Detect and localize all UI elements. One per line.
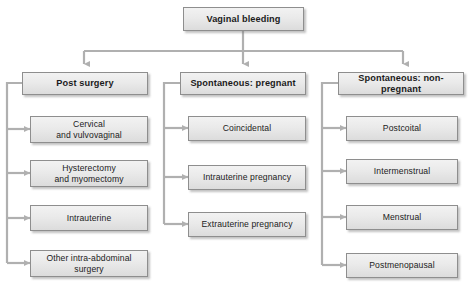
node-leaf-postmenopausal[interactable]: Postmenopausal [346,253,458,278]
node-header-post-surgery[interactable]: Post surgery [22,72,148,95]
node-leaf-intrauterine[interactable]: Intrauterine [30,205,148,231]
node-header-label: Spontaneous: non-pregnant [339,73,463,95]
connector-col1-spine [7,83,22,263]
node-leaf-cervical-and-vulvovaginal[interactable]: Cervical and vulvovaginal [30,116,148,143]
node-leaf-coincidental[interactable]: Coincidental [188,116,306,141]
node-leaf-extrauterine-pregnancy[interactable]: Extrauterine pregnancy [188,212,306,237]
node-leaf-label: Intrauterine [64,213,115,223]
node-leaf-other-intra-abdominal-surgery[interactable]: Other intra-abdominal surgery [30,250,148,277]
node-header-label: Spontaneous: pregnant [187,78,298,89]
node-leaf-menstrual[interactable]: Menstrual [346,205,458,230]
connector-col3-spine [322,83,338,265]
node-leaf-postcoital[interactable]: Postcoital [346,116,458,141]
node-leaf-label: Intrauterine pregnancy [200,172,294,182]
node-leaf-label: Other intra-abdominal surgery [43,253,134,273]
node-leaf-label: Menstrual [380,212,425,222]
node-header-spontaneous-non-pregnant[interactable]: Spontaneous: non-pregnant [338,72,464,95]
node-leaf-intrauterine-pregnancy[interactable]: Intrauterine pregnancy [188,165,306,190]
connector-col2-spine [164,83,180,224]
node-root[interactable]: Vaginal bleeding [183,7,304,31]
flowchart-canvas: Vaginal bleeding Post surgery Cervical a… [0,0,469,293]
node-leaf-label: Coincidental [220,123,275,133]
node-leaf-label: Postmenopausal [366,260,437,270]
node-leaf-label: Cervical and vulvovaginal [53,119,125,139]
node-leaf-label: Intermenstrual [371,166,433,176]
node-leaf-label: Hysterectomy and myomectomy [51,163,126,183]
node-leaf-label: Postcoital [380,123,424,133]
node-root-label: Vaginal bleeding [203,14,283,25]
node-leaf-label: Extrauterine pregnancy [198,219,295,229]
node-header-label: Post surgery [53,78,116,89]
node-leaf-intermenstrual[interactable]: Intermenstrual [346,159,458,184]
node-header-spontaneous-pregnant[interactable]: Spontaneous: pregnant [180,72,306,95]
node-leaf-hysterectomy-and-myomectomy[interactable]: Hysterectomy and myomectomy [30,160,148,187]
